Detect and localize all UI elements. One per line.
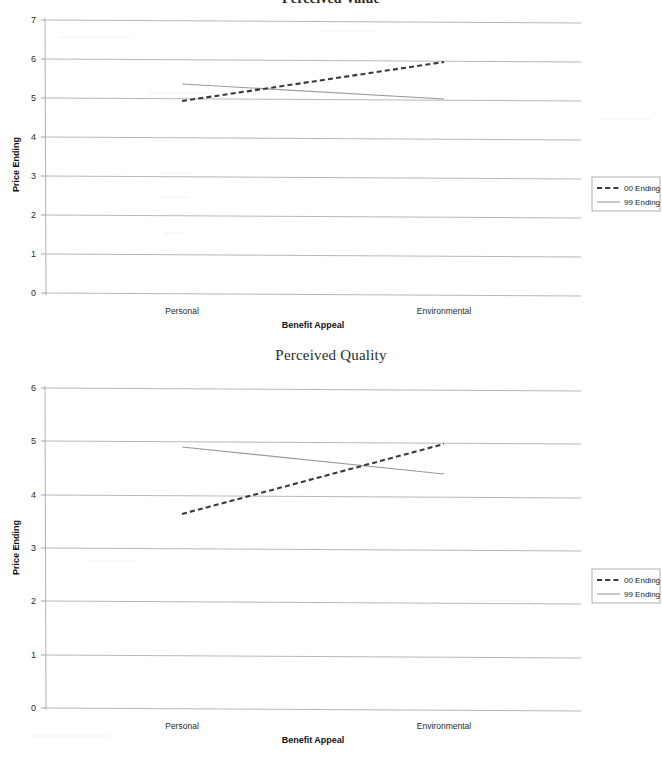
gridline-6 xyxy=(45,59,581,62)
y-axis-title: Price Ending xyxy=(11,137,21,192)
y-tick-label-0: 0 xyxy=(31,703,36,713)
y-tick-label-6: 6 xyxy=(31,383,36,393)
y-tick-label-0: 0 xyxy=(31,288,36,298)
x-axis-title: Benefit Appeal xyxy=(282,735,345,745)
gridline-3 xyxy=(45,548,581,551)
gridline-0 xyxy=(45,708,581,711)
gridline-4 xyxy=(45,495,581,498)
gridline-5 xyxy=(45,441,581,444)
x-category-label-personal: Personal xyxy=(165,721,199,731)
gridline-1 xyxy=(45,254,581,257)
gridline-1 xyxy=(45,655,581,658)
legend-label-00-ending: 00 Ending xyxy=(624,184,660,193)
series-line-99-ending xyxy=(182,84,444,99)
y-tick-label-2: 2 xyxy=(31,210,36,220)
gridline-0 xyxy=(45,293,581,296)
y-tick-label-5: 5 xyxy=(31,436,36,446)
legend-label-99-ending: 99 Ending xyxy=(624,590,660,599)
y-axis-line xyxy=(45,18,46,295)
series-line-00-ending xyxy=(182,444,444,514)
legend-label-99-ending: 99 Ending xyxy=(624,198,660,207)
series-line-00-ending xyxy=(182,62,444,101)
y-axis-line xyxy=(45,386,46,710)
gridline-4 xyxy=(45,137,581,140)
chart-panel-perceived-quality: Perceived Quality 6 5 4 3 2 1 0 Price En… xyxy=(0,340,662,757)
gridline-7 xyxy=(45,20,581,23)
y-tick-label-6: 6 xyxy=(31,54,36,64)
gridline-2 xyxy=(45,601,581,604)
x-category-label-personal: Personal xyxy=(165,306,199,316)
x-axis-title: Benefit Appeal xyxy=(282,320,345,330)
y-tick-label-3: 3 xyxy=(31,171,36,181)
gridline-2 xyxy=(45,215,581,218)
y-tick-label-2: 2 xyxy=(31,596,36,606)
x-category-label-environmental: Environmental xyxy=(417,306,471,316)
legend-perceived-value: 00 Ending 99 Ending xyxy=(592,177,660,211)
y-tick-label-4: 4 xyxy=(31,132,36,142)
y-tick-label-5: 5 xyxy=(31,93,36,103)
legend-perceived-quality: 00 Ending 99 Ending xyxy=(592,569,660,603)
legend-label-00-ending: 00 Ending xyxy=(624,576,660,585)
series-line-99-ending xyxy=(182,447,444,474)
y-tick-label-3: 3 xyxy=(31,543,36,553)
y-tick-label-1: 1 xyxy=(31,249,36,259)
gridline-5 xyxy=(45,98,581,101)
plot-area-perceived-quality: 6 5 4 3 2 1 0 Price Ending Personal Envi… xyxy=(0,340,662,757)
gridline-6 xyxy=(45,388,581,391)
y-axis-title: Price Ending xyxy=(11,520,21,575)
chart-panel-perceived-value: Perceived Value 7 6 5 4 3 2 1 0 Price En… xyxy=(0,0,662,340)
y-tick-label-4: 4 xyxy=(31,490,36,500)
x-category-label-environmental: Environmental xyxy=(417,721,471,731)
y-tick-label-7: 7 xyxy=(31,15,36,25)
y-tick-label-1: 1 xyxy=(31,650,36,660)
gridline-3 xyxy=(45,176,581,179)
plot-area-perceived-value: 7 6 5 4 3 2 1 0 Price Ending Personal En… xyxy=(0,0,662,340)
